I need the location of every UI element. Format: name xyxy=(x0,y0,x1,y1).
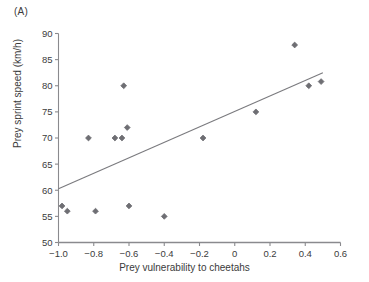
y-tick-label: 75 xyxy=(42,106,53,117)
axis-ticks xyxy=(55,34,341,247)
data-point-marker xyxy=(253,109,259,115)
y-tick-label: 80 xyxy=(42,80,53,91)
x-axis-label: Prey vulnerability to cheetahs xyxy=(0,262,369,273)
data-point-marker xyxy=(112,135,118,141)
fit-line-segment xyxy=(59,73,323,189)
y-tick-label: 90 xyxy=(42,28,53,39)
x-tick-label: −0.6 xyxy=(120,248,139,259)
y-axis-label: Prey sprint speed (km/h) xyxy=(12,29,23,159)
x-tick-label: −0.2 xyxy=(190,248,209,259)
data-point-marker xyxy=(126,203,132,209)
data-point-marker xyxy=(161,213,167,219)
x-tick-label: −1.0 xyxy=(49,248,68,259)
scatter-plot: 505560657075808590−1.0−0.8−0.6−0.4−0.200… xyxy=(0,0,369,282)
x-tick-label: −0.8 xyxy=(84,248,103,259)
x-tick-label: 0 xyxy=(232,248,237,259)
y-tick-label: 85 xyxy=(42,54,53,65)
x-tick-label: 0.4 xyxy=(299,248,312,259)
data-point-marker xyxy=(119,135,125,141)
data-point-marker xyxy=(59,203,65,209)
data-point-marker xyxy=(64,208,70,214)
regression-line xyxy=(59,73,323,189)
y-tick-label: 65 xyxy=(42,159,53,170)
y-tick-label: 70 xyxy=(42,132,53,143)
data-point-marker xyxy=(292,42,298,48)
data-point-marker xyxy=(124,125,130,131)
data-point-marker xyxy=(121,83,127,89)
figure-panel: (A) Prey sprint speed (km/h) Prey vulner… xyxy=(0,0,369,282)
y-tick-label: 55 xyxy=(42,211,53,222)
data-point-marker xyxy=(86,135,92,141)
y-tick-label: 50 xyxy=(42,237,53,248)
x-tick-label: 0.6 xyxy=(334,248,347,259)
x-tick-label: 0.2 xyxy=(263,248,276,259)
y-tick-label: 60 xyxy=(42,185,53,196)
data-point-marker xyxy=(200,135,206,141)
axes xyxy=(59,34,341,243)
x-tick-label: −0.4 xyxy=(155,248,174,259)
data-point-marker xyxy=(306,83,312,89)
data-point-marker xyxy=(93,208,99,214)
panel-label: (A) xyxy=(14,6,28,17)
axis-tick-labels: 505560657075808590−1.0−0.8−0.6−0.4−0.200… xyxy=(42,28,347,259)
data-point-marker xyxy=(318,79,324,85)
